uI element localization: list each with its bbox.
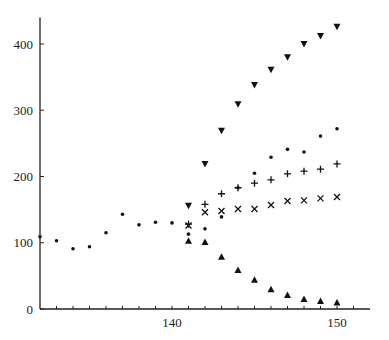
plus-marker [251,180,258,187]
triangle-down-marker [235,101,242,108]
cross-marker [235,206,241,212]
dot-marker [286,148,290,152]
triangle-up-marker [284,292,291,299]
triangle-up-marker [251,276,258,283]
y-tick-label: 400 [14,37,34,52]
dot-marker [253,171,257,175]
dot-marker [319,134,323,138]
dot-marker [137,223,141,227]
triangle-up-marker [268,286,275,293]
cross-marker [318,195,324,201]
triangle-down-marker [268,67,275,74]
dot-marker [220,215,224,219]
dot-marker [187,232,191,236]
triangle-up-marker [185,237,192,244]
plus-marker [301,168,308,175]
cross-marker [219,208,225,214]
dot-marker [302,150,306,154]
triangle-up-marker [218,253,225,260]
dot-marker [55,239,59,243]
dot-marker [71,247,75,251]
cross-marker [334,194,340,200]
dot-marker [170,221,174,225]
dot-marker [203,227,207,231]
cross-marker [301,197,307,203]
y-tick-label: 300 [14,103,34,118]
x-axis: 140150 [40,306,370,330]
dot-marker [121,212,125,216]
triangle-up-marker [334,299,341,306]
plus-marker [202,201,209,208]
dot-marker [335,127,339,131]
x-tick-label: 140 [162,315,182,330]
triangle-down-marker [185,203,192,210]
dot-marker [269,155,273,159]
dot-marker [154,220,158,224]
cross-marker [252,206,258,212]
x-tick-label: 150 [327,315,347,330]
triangle-down-marker [218,128,225,135]
triangle-up-marker [235,266,242,273]
cross-marker [268,202,274,208]
triangle-down-marker [284,54,291,61]
triangle-up-marker [202,239,209,246]
triangle-up-marker [317,298,324,305]
dot-marker [104,231,108,235]
cross-marker [202,209,208,215]
y-tick-label: 100 [14,235,34,250]
plus-marker [284,170,291,177]
triangle-down-marker [301,41,308,48]
cross-marker [285,198,291,204]
scatter-chart: 140150 0100200300400 [0,0,389,340]
triangle-down-marker [251,82,258,89]
plus-marker [185,221,192,228]
y-axis: 0100200300400 [14,18,45,317]
triangle-up-marker [301,296,308,303]
plus-marker [317,166,324,173]
plot-markers [38,24,340,306]
plus-marker [268,176,275,183]
triangle-down-marker [334,24,341,31]
triangle-down-marker [202,161,209,168]
dot-marker [88,245,92,249]
triangle-down-marker [317,33,324,40]
plus-marker [235,184,242,191]
y-tick-label: 200 [14,169,34,184]
y-tick-label: 0 [27,302,34,317]
plus-marker [218,190,225,197]
plus-marker [334,160,341,167]
